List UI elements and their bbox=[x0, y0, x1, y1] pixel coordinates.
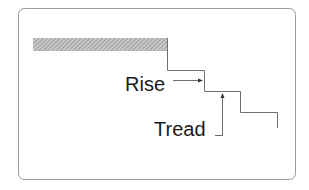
floor-hatch bbox=[33, 38, 167, 51]
stair-diagram: Rise Tread bbox=[0, 0, 309, 190]
tread-label: Tread bbox=[154, 118, 206, 140]
rise-label: Rise bbox=[125, 73, 165, 95]
